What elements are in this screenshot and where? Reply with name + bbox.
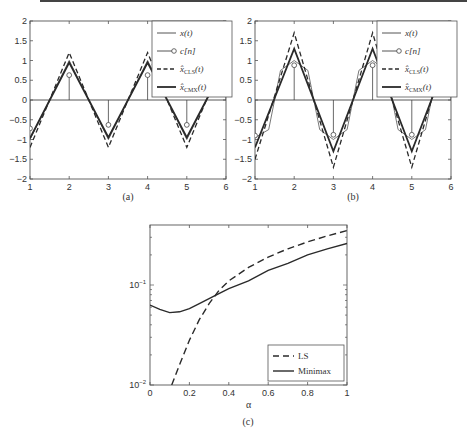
x-tick-label: 2 <box>67 182 72 192</box>
figure: 123456−2−1.5−1−0.500.511.52x(t)c[n]x̂CLS… <box>0 0 467 433</box>
y-tick-label: 0.5 <box>239 75 252 85</box>
stem-marker <box>28 126 33 131</box>
y-tick-label: −1 <box>242 135 252 145</box>
caption-a: (a) <box>122 191 133 203</box>
y-tick-label: −0.5 <box>234 115 252 125</box>
y-tick-label: −2 <box>242 174 252 184</box>
legend-marker <box>172 49 177 54</box>
x-tick-label: 5 <box>184 182 189 192</box>
x-tick-label: 3 <box>331 182 336 192</box>
x-tick-label: 0.2 <box>183 388 196 398</box>
legend: x(t)c[n]x̂CLS(t)x̂CMX(t) <box>152 21 232 97</box>
legend-label: LS <box>298 351 309 361</box>
y-tick-label: 2 <box>247 16 252 26</box>
stem-marker <box>409 132 414 137</box>
y-tick-label: 1 <box>22 56 27 66</box>
y-tick-label: −1 <box>17 135 27 145</box>
legend-marker <box>397 49 402 54</box>
legend-label: Minimax <box>298 366 331 376</box>
x-axis-label: α <box>246 399 252 410</box>
x-tick-label: 0.8 <box>301 388 314 398</box>
y-tick-label: 1.5 <box>14 36 27 46</box>
series-minimax-line <box>150 244 347 313</box>
legend-label: c[n] <box>180 46 196 56</box>
x-tick-label: 1 <box>344 388 349 398</box>
x-tick-label: 1 <box>27 182 32 192</box>
x-tick-label: 0.6 <box>262 388 275 398</box>
caption-c: (c) <box>242 416 253 428</box>
chart-panel-a: 123456−2−1.5−1−0.500.511.52x(t)c[n]x̂CLS… <box>9 16 232 192</box>
y-tick-label: 1 <box>247 56 252 66</box>
y-tick-label: 1.5 <box>239 36 252 46</box>
y-tick-label: 0 <box>22 95 27 105</box>
x-tick-label: 6 <box>223 182 228 192</box>
y-tick-label: 10−1 <box>129 279 147 290</box>
stem-marker <box>331 132 336 137</box>
x-tick-label: 0.4 <box>223 388 236 398</box>
legend-label: x(t) <box>179 28 193 38</box>
y-tick-label: −2 <box>17 174 27 184</box>
legend: x(t)c[n]x̂CLS(t)x̂CMX(t) <box>377 21 457 97</box>
y-tick-label: −1.5 <box>234 154 252 164</box>
stem-marker <box>106 122 111 127</box>
x-tick-label: 2 <box>292 182 297 192</box>
x-tick-label: 1 <box>252 182 257 192</box>
x-tick-label: 6 <box>448 182 453 192</box>
stem-marker <box>145 73 150 78</box>
legend-label: x(t) <box>404 28 418 38</box>
y-tick-label: −1.5 <box>9 154 27 164</box>
y-tick-label: 10−2 <box>129 379 147 390</box>
stem-marker <box>253 133 258 138</box>
x-tick-label: 5 <box>409 182 414 192</box>
chart-panel-c: 00.20.40.60.8110−210−1αLSMinimax <box>129 225 349 410</box>
stem-marker <box>292 63 297 68</box>
x-tick-label: 3 <box>106 182 111 192</box>
stem-marker <box>184 122 189 127</box>
legend: LSMinimax <box>268 345 344 381</box>
x-tick-label: 4 <box>145 182 150 192</box>
y-tick-label: 0 <box>247 95 252 105</box>
caption-b: (b) <box>347 191 359 203</box>
y-tick-label: −0.5 <box>9 115 27 125</box>
y-tick-label: 2 <box>22 16 27 26</box>
legend-label: c[n] <box>405 46 421 56</box>
x-tick-label: 4 <box>370 182 375 192</box>
y-tick-label: 0.5 <box>14 75 27 85</box>
stem-marker <box>370 63 375 68</box>
chart-panel-b: 123456−2−1.5−1−0.500.511.52x(t)c[n]x̂CLS… <box>234 16 457 192</box>
stem-marker <box>67 73 72 78</box>
x-tick-label: 0 <box>147 388 152 398</box>
